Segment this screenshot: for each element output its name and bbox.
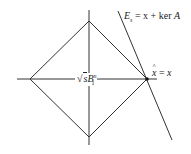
subspace-label: Es = x + ker A (124, 11, 180, 23)
solution-point (145, 77, 149, 81)
point-label: x = x (152, 68, 172, 78)
ball-label: √sBn1 (75, 73, 97, 86)
